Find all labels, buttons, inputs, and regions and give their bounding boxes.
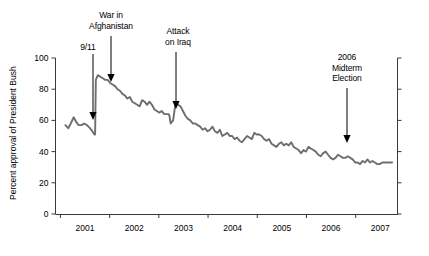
x-axis-tick-labels: 2001200220032004200520062007 (76, 223, 390, 233)
approval-line-series (65, 75, 392, 164)
x-tick-label: 2003 (174, 223, 193, 233)
annotation-label-midterm-election-2006: 2006MidtermElection (287, 52, 407, 84)
annotation-line: 2006 (287, 52, 407, 63)
y-tick-label: 100 (34, 53, 48, 63)
x-tick-label: 2001 (76, 223, 95, 233)
y-tick-label: 60 (39, 115, 49, 125)
annotation-line: Election (287, 73, 407, 84)
x-tick-label: 2006 (322, 223, 341, 233)
y-tick-label: 80 (39, 84, 49, 94)
x-tick-label: 2004 (223, 223, 242, 233)
annotation-line: Midterm (287, 63, 407, 74)
y-axis-ticks (52, 58, 56, 214)
y-axis-title: Percent approval of President Bush (8, 66, 18, 200)
y-tick-label: 40 (39, 147, 49, 157)
annotation-arrow-head-midterm-election-2006 (343, 135, 350, 143)
y-axis-tick-labels: 020406080100 (34, 53, 48, 219)
approval-rating-chart: 020406080100 200120022003200420052006200… (0, 0, 429, 256)
annotation-line: War in (51, 10, 171, 21)
annotation-label-attack-on-iraq: Attackon Iraq (118, 26, 238, 47)
y-tick-label: 0 (44, 209, 49, 219)
x-tick-label: 2007 (371, 223, 390, 233)
x-tick-label: 2002 (125, 223, 144, 233)
annotation-line: on Iraq (118, 37, 238, 48)
x-tick-label: 2005 (272, 223, 291, 233)
y-tick-label: 20 (39, 178, 49, 188)
annotation-line: Attack (118, 26, 238, 37)
